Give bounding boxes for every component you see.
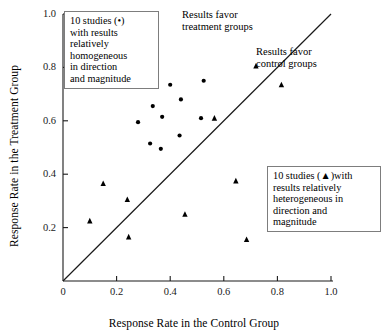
data-point-circle xyxy=(148,141,152,145)
legend-box-homogeneous: 10 studies (•) with results relatively h… xyxy=(64,11,159,89)
x-tick-label: 0.6 xyxy=(217,287,230,298)
data-point-circle xyxy=(160,115,164,119)
data-point-circle xyxy=(159,147,163,151)
data-point-triangle xyxy=(87,218,92,224)
data-point-triangle xyxy=(101,180,106,186)
data-point-circle xyxy=(202,79,206,83)
x-axis-title: Response Rate in the Control Group xyxy=(0,317,388,329)
data-point-circle xyxy=(168,83,172,87)
y-tick-label: 0.6 xyxy=(26,116,56,127)
data-point-triangle xyxy=(125,196,130,202)
data-point-circle xyxy=(179,97,183,101)
y-tick-label: 0.8 xyxy=(26,62,56,73)
legend-box-heterogeneous: 10 studies (▲)with results relatively he… xyxy=(267,166,381,232)
data-point-circle xyxy=(199,116,203,120)
data-point-triangle xyxy=(244,237,249,243)
data-point-circle xyxy=(151,104,155,108)
y-tick-label: 0.2 xyxy=(26,222,56,233)
data-point-triangle xyxy=(182,211,187,217)
scatter-chart: 00.20.40.60.81.0 0.20.40.60.81.0 Respons… xyxy=(0,0,388,334)
data-point-triangle xyxy=(233,178,238,184)
x-tick-label: 0.2 xyxy=(110,287,123,298)
data-point-circle xyxy=(136,120,140,124)
y-axis-title: Response Rate in the Treatment Group xyxy=(8,56,20,256)
data-point-triangle xyxy=(212,115,217,121)
x-tick-label: 0.4 xyxy=(164,287,177,298)
x-tick-label: 1.0 xyxy=(324,287,337,298)
data-point-triangle xyxy=(279,82,284,88)
y-tick-label: 0.4 xyxy=(26,169,56,180)
x-tick-label: 0.8 xyxy=(271,287,284,298)
x-tick-label: 0 xyxy=(60,287,65,298)
annotation-results-favor-control: Results favor control groups xyxy=(256,46,317,70)
data-point-circle xyxy=(177,133,181,137)
y-tick-label: 1.0 xyxy=(26,9,56,20)
annotation-results-favor-treatment: Results favor treatment groups xyxy=(182,9,253,33)
data-point-triangle xyxy=(126,234,131,240)
